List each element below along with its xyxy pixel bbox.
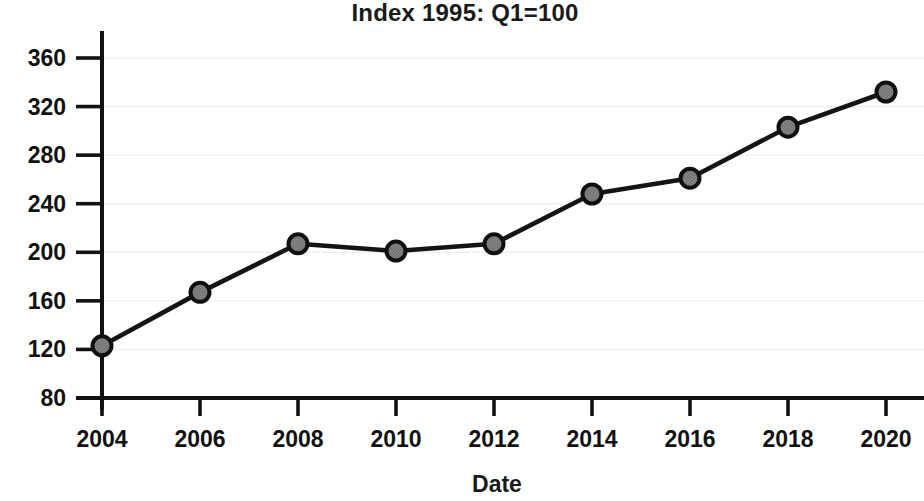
y-tick-label: 200: [28, 239, 66, 265]
x-tick-label: 2018: [762, 426, 813, 452]
data-point-marker: [877, 83, 896, 102]
x-tick-label: 2008: [272, 426, 323, 452]
line-chart: Index 1995: Q1=100 801201602002402803203…: [0, 0, 924, 501]
data-point-marker: [289, 234, 308, 253]
data-point-marker: [387, 242, 406, 261]
y-tick-label: 120: [28, 336, 66, 362]
data-point-marker: [779, 118, 798, 137]
data-point-marker: [583, 185, 602, 204]
x-axis-tick-labels: 200420062008201020122014201620182020: [76, 426, 911, 452]
chart-title: Index 1995: Q1=100: [351, 0, 578, 26]
y-tick-label: 360: [28, 45, 66, 71]
y-tick-label: 240: [28, 191, 66, 217]
x-tick-label: 2006: [174, 426, 225, 452]
y-tick-label: 320: [28, 94, 66, 120]
x-tick-label: 2010: [370, 426, 421, 452]
y-tick-label: 280: [28, 142, 66, 168]
chart-container: Index 1995: Q1=100 801201602002402803203…: [0, 0, 924, 501]
y-tick-label: 160: [28, 288, 66, 314]
y-tick-label: 80: [40, 385, 66, 411]
x-tick-label: 2020: [860, 426, 911, 452]
x-tick-label: 2012: [468, 426, 519, 452]
x-tick-label: 2016: [664, 426, 715, 452]
data-point-marker: [485, 234, 504, 253]
data-point-marker: [681, 169, 700, 188]
data-point-marker: [191, 283, 210, 302]
x-tick-label: 2014: [566, 426, 617, 452]
x-axis-title: Date: [472, 471, 522, 497]
data-point-marker: [93, 336, 112, 355]
x-tick-label: 2004: [76, 426, 127, 452]
